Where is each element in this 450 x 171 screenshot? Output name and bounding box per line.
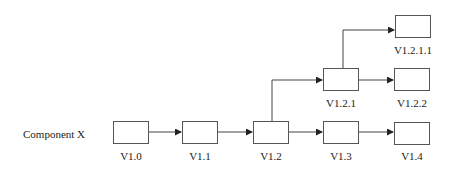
edges-layer — [0, 0, 450, 171]
node-label-v1-3: V1.3 — [311, 150, 371, 162]
node-box-v1-2-2 — [394, 68, 430, 91]
node-box-v1-3 — [323, 121, 359, 144]
node-label-v1-0: V1.0 — [101, 150, 161, 162]
node-box-v1-2-1 — [323, 68, 359, 91]
node-label-v1-2-2: V1.2.2 — [382, 97, 442, 109]
node-label-v1-1: V1.1 — [170, 150, 230, 162]
node-box-v1-2 — [253, 121, 289, 144]
node-box-v1-2-1-1 — [395, 15, 431, 38]
node-label-v1-2: V1.2 — [241, 150, 301, 162]
node-box-v1-1 — [182, 121, 218, 144]
node-box-v1-0 — [113, 121, 149, 144]
node-label-v1-2-1: V1.2.1 — [311, 97, 371, 109]
version-tree-diagram: Component X V1.0 V1.1 V1.2 V1.3 V1.4 V1.… — [0, 0, 450, 171]
node-box-v1-4 — [394, 122, 430, 145]
node-label-v1-2-1-1: V1.2.1.1 — [383, 44, 443, 56]
node-label-v1-4: V1.4 — [382, 150, 442, 162]
component-label: Component X — [23, 128, 85, 140]
